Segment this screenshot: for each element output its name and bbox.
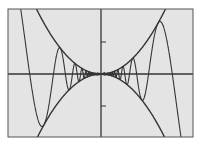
function-graph [0,0,203,147]
